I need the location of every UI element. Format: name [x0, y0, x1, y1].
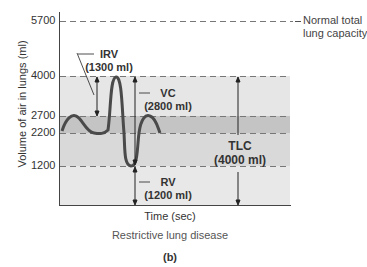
- y-axis-label: Volume of air in lungs (ml): [16, 24, 28, 184]
- vc-label: VC (2800 ml): [140, 87, 196, 113]
- tlc-value: (4000 ml): [212, 153, 268, 167]
- tick-5700: 5700: [31, 14, 55, 26]
- normal-tlc-label-line1: Normal total: [303, 14, 362, 27]
- tlc-label: TLC (4000 ml): [212, 139, 268, 167]
- diagram-title: Restrictive lung disease: [80, 229, 260, 241]
- rv-value: (1200 ml): [140, 189, 196, 202]
- vc-name: VC: [140, 87, 196, 100]
- panel-label: (b): [150, 251, 190, 263]
- normal-tlc-label-line2: lung capacity: [303, 27, 367, 40]
- irv-label: IRV (1300 ml): [84, 48, 134, 74]
- vc-value: (2800 ml): [140, 100, 196, 113]
- tick-1200: 1200: [31, 159, 55, 171]
- tick-4000: 4000: [31, 69, 55, 81]
- tick-2700: 2700: [31, 109, 55, 121]
- rv-label: RV (1200 ml): [140, 176, 196, 202]
- tlc-name: TLC: [212, 139, 268, 153]
- x-axis-label: Time (sec): [100, 210, 240, 222]
- tick-2200: 2200: [31, 126, 55, 138]
- rv-name: RV: [140, 176, 196, 189]
- irv-name: IRV: [84, 48, 134, 61]
- tidal-band: [60, 116, 290, 133]
- irv-value: (1300 ml): [84, 61, 134, 74]
